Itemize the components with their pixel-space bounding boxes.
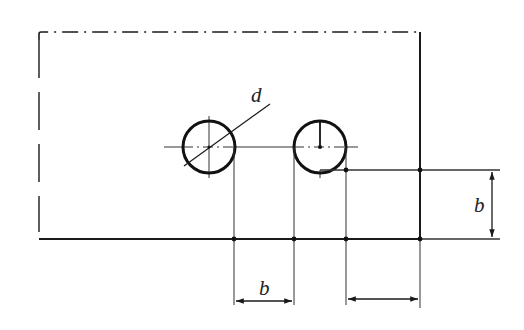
- extension-lines: [234, 147, 500, 308]
- label-diameter-d: d: [251, 83, 262, 107]
- hole-2-center-point: [318, 145, 322, 149]
- junction-dot: [344, 237, 349, 242]
- junction-dot: [418, 237, 423, 242]
- junction-dot: [344, 168, 349, 173]
- dimension-lines: [236, 172, 492, 301]
- technical-drawing: d b b: [0, 0, 524, 330]
- label-spacing-b: b: [259, 276, 270, 300]
- plate-outline: [39, 32, 420, 239]
- diameter-leader-line: [184, 104, 270, 166]
- plate-top-break-line: [39, 32, 420, 40]
- label-offset-b: b: [474, 193, 485, 217]
- junction-dot: [292, 237, 297, 242]
- junction-dot: [418, 168, 423, 173]
- hole-1-center-point: [208, 146, 211, 149]
- junction-dot: [232, 237, 237, 242]
- junction-dots: [232, 168, 423, 242]
